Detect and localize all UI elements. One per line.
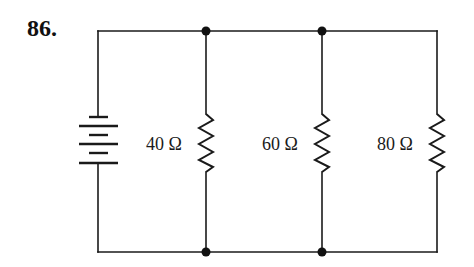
resistor-80-ohm-label: 80 Ω: [377, 135, 413, 153]
battery-icon: [79, 117, 118, 163]
resistor-80-ohm-icon: [430, 114, 444, 172]
resistor-40-ohm-icon: [199, 114, 213, 172]
resistor-60-ohm-icon: [315, 114, 329, 172]
junction-dot-top-1: [202, 27, 211, 36]
junction-dot-bottom-2: [318, 248, 327, 257]
resistor-60-ohm-label: 60 Ω: [262, 135, 298, 153]
junction-dot-top-2: [318, 27, 327, 36]
resistor-40-ohm-label: 40 Ω: [146, 135, 182, 153]
junction-dot-bottom-1: [202, 248, 211, 257]
